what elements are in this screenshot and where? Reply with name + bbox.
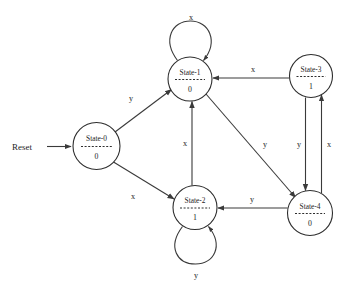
edge-label-state2-self: y <box>194 271 199 280</box>
edge-label-state1-self: x <box>189 13 193 22</box>
edge-label-state2-state1: x <box>183 139 187 148</box>
reset-arrow-group: Reset <box>12 142 71 152</box>
edge-label-state0-state1: y <box>129 94 134 103</box>
state-node-state-4[interactable]: State-4 0 <box>288 191 333 236</box>
edge-state1-self-loop: x <box>170 13 211 61</box>
edge-line-state1-self <box>170 21 211 61</box>
fsm-diagram-canvas: Reset y x x y x x <box>0 0 350 289</box>
state-output-state-0: 0 <box>95 152 99 161</box>
state-output-state-3: 1 <box>309 82 313 91</box>
state-node-state-2[interactable]: State-2 1 <box>173 186 217 230</box>
state-machine-diagram: Reset y x x y x x <box>0 0 350 289</box>
edge-line-state0-state2 <box>114 162 175 199</box>
state-name-state-2: State-2 <box>185 196 206 205</box>
edge-line-state2-self <box>175 227 216 265</box>
state-node-state-1[interactable]: State-1 0 <box>168 57 212 101</box>
edge-state2-self-loop: y <box>175 227 216 281</box>
edge-label-state4-state2: y <box>250 195 255 204</box>
state-name-state-4: State-4 <box>300 202 321 211</box>
edge-label-state4-state3: x <box>327 140 331 149</box>
state-name-state-3: State-3 <box>301 65 322 74</box>
edge-state2-to-state1: x <box>183 102 192 186</box>
edge-state4-to-state3: x <box>322 95 332 193</box>
state-node-state-3[interactable]: State-3 1 <box>290 55 333 98</box>
state-name-state-0: State-0 <box>86 134 107 143</box>
edge-label-state3-state1: x <box>251 65 255 74</box>
state-name-state-1: State-1 <box>180 68 201 77</box>
edge-state1-to-state4: y <box>206 94 296 198</box>
state-output-state-4: 0 <box>308 219 312 228</box>
edge-state3-to-state4: y <box>297 98 306 191</box>
edge-state3-to-state1: x <box>213 65 290 78</box>
edge-state0-to-state1: y <box>115 90 172 133</box>
edge-line-state1-state4 <box>206 94 296 198</box>
edge-state0-to-state2: x <box>114 162 175 201</box>
reset-label: Reset <box>12 142 32 152</box>
edge-label-state3-state4: y <box>297 140 302 149</box>
edge-label-state1-state4: y <box>263 140 268 149</box>
state-node-state-0[interactable]: State-0 0 <box>73 123 120 170</box>
state-output-state-1: 0 <box>188 85 192 94</box>
edge-label-state0-state2: x <box>131 192 135 201</box>
state-output-state-2: 1 <box>193 213 197 222</box>
edge-line-state0-state1 <box>115 90 172 133</box>
edge-state4-to-state2: y <box>218 195 288 208</box>
